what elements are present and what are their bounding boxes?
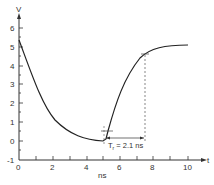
- rise-time-label: Tr = 2.1 ns: [108, 141, 143, 151]
- svg-text:10: 10: [183, 163, 192, 172]
- svg-text:5: 5: [10, 43, 15, 52]
- svg-text:3: 3: [10, 80, 15, 89]
- x-axis-label: t: [207, 156, 210, 165]
- y-axis-label: V: [16, 5, 22, 14]
- arrow-right-icon: [140, 137, 144, 140]
- chart: V t ns 6 5 4 3 2 1 0 -1 0 2 4 6 8 10 Tr …: [0, 0, 214, 185]
- svg-text:6: 6: [10, 24, 15, 33]
- svg-text:4: 4: [10, 62, 15, 71]
- chart-svg: V t ns 6 5 4 3 2 1 0 -1 0 2 4 6 8 10 Tr …: [0, 0, 214, 185]
- svg-text:0: 0: [16, 163, 21, 172]
- svg-text:6: 6: [117, 163, 122, 172]
- x-unit-label: ns: [98, 171, 106, 180]
- svg-text:2: 2: [10, 99, 15, 108]
- x-ticks: [36, 156, 188, 160]
- svg-text:1: 1: [10, 118, 15, 127]
- svg-text:4: 4: [84, 163, 89, 172]
- svg-text:0: 0: [10, 137, 15, 146]
- svg-text:-1: -1: [7, 156, 15, 165]
- voltage-curve: [19, 40, 188, 141]
- svg-text:2: 2: [50, 163, 55, 172]
- svg-text:8: 8: [150, 163, 155, 172]
- y-tick-labels: 6 5 4 3 2 1 0 -1: [7, 24, 15, 165]
